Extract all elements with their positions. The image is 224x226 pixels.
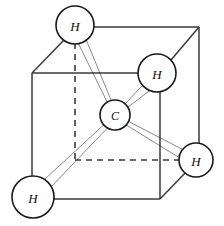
hydrogen-upper-right-label: H — [151, 67, 162, 82]
hydrogen-bottom-left-label: H — [27, 191, 38, 206]
methane-cube-diagram: HHHHC — [0, 0, 224, 226]
hydrogen-bottom-left: H — [12, 176, 54, 218]
hydrogen-top-left: H — [56, 6, 94, 44]
molecule-svg-canvas: HHHHC — [0, 0, 224, 226]
hydrogen-upper-right: H — [138, 54, 176, 92]
carbon-center-label: C — [111, 109, 120, 123]
hydrogen-right-label: H — [190, 154, 201, 169]
hydrogen-right: H — [179, 143, 213, 177]
hydrogen-top-left-label: H — [69, 19, 80, 34]
carbon-center: C — [100, 100, 130, 130]
